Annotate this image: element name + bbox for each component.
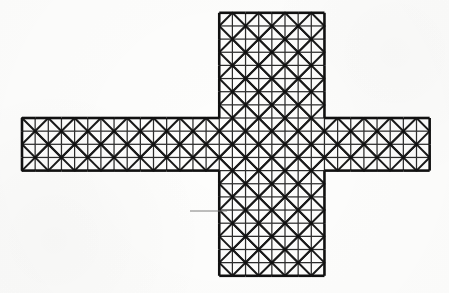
brace-node	[376, 130, 379, 133]
brace-node	[231, 38, 234, 41]
brace-node	[270, 182, 273, 185]
brace-node	[257, 90, 260, 93]
brace-node	[297, 130, 300, 133]
brace-node	[165, 130, 168, 133]
brace-node	[73, 143, 76, 146]
brace-node	[152, 143, 155, 146]
brace-node	[47, 143, 50, 146]
brace-node	[310, 38, 313, 41]
brace-node	[310, 64, 313, 67]
brace-node	[113, 130, 116, 133]
grid-lines-layer	[22, 13, 430, 276]
brace-node	[389, 143, 392, 146]
brace-node	[191, 156, 194, 159]
brace-node	[244, 130, 247, 133]
brace-node	[86, 130, 89, 133]
brace-node	[284, 90, 287, 93]
brace-node	[244, 51, 247, 54]
brace-node	[244, 261, 247, 264]
brace-node	[231, 143, 234, 146]
cross-grid-figure	[0, 0, 449, 293]
brace-node	[349, 130, 352, 133]
brace-node	[126, 143, 129, 146]
brace-node	[310, 143, 313, 146]
brace-node	[284, 117, 287, 120]
brace-node	[257, 222, 260, 225]
brace-node	[270, 130, 273, 133]
brace-node	[244, 235, 247, 238]
brace-node	[244, 103, 247, 106]
brace-node	[257, 117, 260, 120]
brace-node	[284, 38, 287, 41]
brace-node	[310, 169, 313, 172]
brace-node	[34, 130, 37, 133]
brace-node	[60, 130, 63, 133]
brace-node	[257, 169, 260, 172]
brace-node	[270, 24, 273, 27]
brace-node	[231, 90, 234, 93]
brace-node	[310, 90, 313, 93]
brace-node	[349, 156, 352, 159]
brace-node	[257, 195, 260, 198]
brace-node	[284, 143, 287, 146]
brace-node	[244, 182, 247, 185]
edge-diagonal	[311, 263, 324, 276]
brace-node	[297, 103, 300, 106]
brace-node	[270, 156, 273, 159]
brace-node	[231, 222, 234, 225]
brace-node	[297, 77, 300, 80]
brace-node	[86, 156, 89, 159]
brace-node	[218, 130, 221, 133]
brace-node	[205, 143, 208, 146]
brace-node	[257, 38, 260, 41]
brace-node	[310, 222, 313, 225]
brace-node	[415, 143, 418, 146]
brace-node	[310, 195, 313, 198]
brace-node	[99, 143, 102, 146]
edge-diagonal	[417, 157, 430, 170]
brace-node	[257, 248, 260, 251]
brace-node	[60, 156, 63, 159]
brace-node	[402, 130, 405, 133]
brace-node	[244, 209, 247, 212]
brace-node	[244, 24, 247, 27]
brace-node	[362, 143, 365, 146]
brace-node	[284, 248, 287, 251]
brace-node	[231, 248, 234, 251]
brace-node	[244, 156, 247, 159]
brace-node	[297, 156, 300, 159]
brace-node	[376, 156, 379, 159]
edge-diagonal	[311, 13, 324, 26]
brace-node	[297, 24, 300, 27]
brace-node	[191, 130, 194, 133]
brace-node	[336, 143, 339, 146]
brace-node	[297, 182, 300, 185]
brace-node	[323, 130, 326, 133]
brace-node	[244, 77, 247, 80]
brace-node	[257, 64, 260, 67]
brace-node	[270, 103, 273, 106]
brace-node	[297, 261, 300, 264]
brace-node	[270, 261, 273, 264]
brace-node	[113, 156, 116, 159]
brace-node	[402, 156, 405, 159]
brace-node	[284, 169, 287, 172]
brace-node	[310, 248, 313, 251]
brace-node	[297, 235, 300, 238]
edge-diagonal	[417, 118, 430, 131]
edge-diagonal	[219, 263, 232, 276]
brace-node	[284, 222, 287, 225]
brace-node	[284, 64, 287, 67]
brace-node	[284, 195, 287, 198]
brace-node	[297, 209, 300, 212]
brace-node	[34, 156, 37, 159]
brace-node	[139, 130, 142, 133]
brace-node	[139, 156, 142, 159]
brace-node	[270, 77, 273, 80]
brace-node	[270, 209, 273, 212]
brace-node	[231, 117, 234, 120]
brace-node	[310, 117, 313, 120]
brace-node	[323, 156, 326, 159]
brace-node	[231, 64, 234, 67]
brace-node	[231, 169, 234, 172]
